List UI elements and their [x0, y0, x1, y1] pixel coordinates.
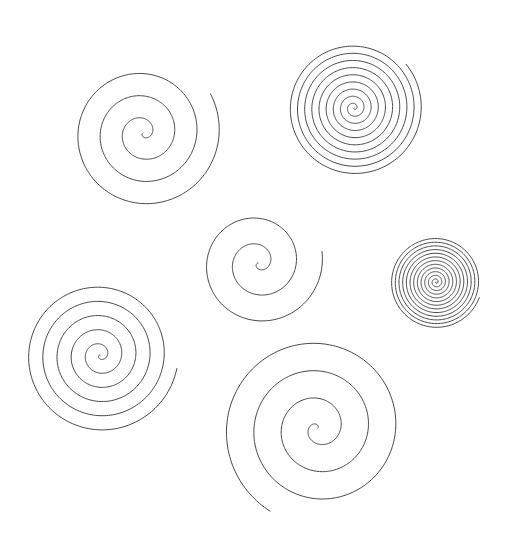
spiral-bottom-center	[226, 343, 395, 511]
spiral-top-right	[290, 46, 421, 173]
spiral-small-right	[392, 239, 480, 328]
spiral-bottom-left	[29, 287, 177, 430]
spiral-figure-svg	[0, 0, 509, 541]
figure-canvas	[0, 0, 509, 541]
spiral-middle	[207, 218, 323, 321]
spiral-top-left	[78, 73, 219, 203]
spiral-group	[29, 46, 480, 511]
